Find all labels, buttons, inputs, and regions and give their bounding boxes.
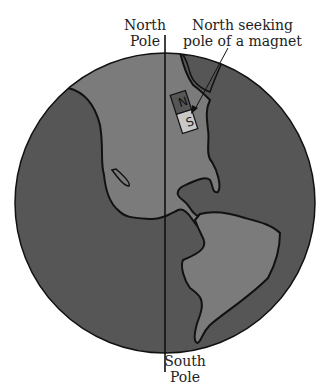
globe-diagram: [0, 0, 331, 387]
